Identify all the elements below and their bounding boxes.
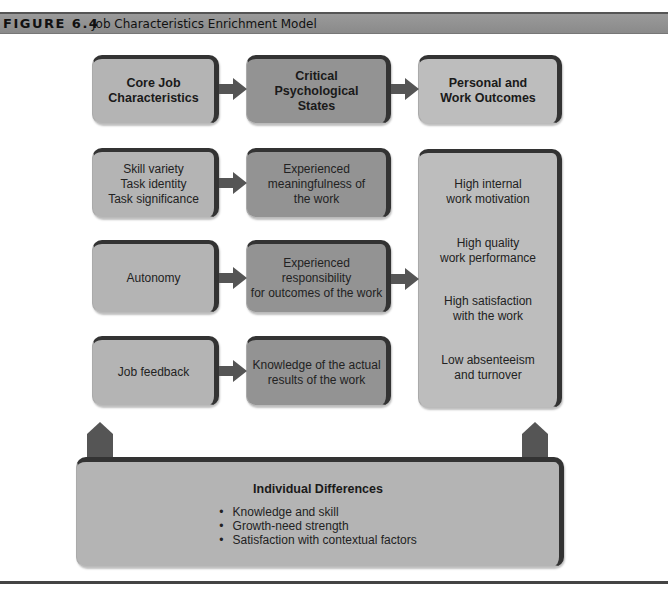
header-core-job-characteristics: Core Job Characteristics	[92, 55, 219, 124]
header-line: States	[298, 99, 336, 114]
outcome-motivation: High internal work motivation	[446, 177, 529, 207]
header-critical-psychological-states: Critical Psychological States	[246, 55, 391, 124]
arrow-up-icon	[87, 422, 113, 462]
arrow-right-icon	[391, 268, 419, 290]
individual-differences-list: Knowledge and skill Growth-need strength…	[219, 505, 416, 547]
individual-differences-box: Individual Differences Knowledge and ski…	[76, 457, 564, 567]
item-line: and turnover	[441, 368, 534, 383]
arrow-right-icon	[391, 78, 419, 100]
item-line: Low absenteeism	[441, 353, 534, 368]
item-line: Task significance	[108, 192, 199, 207]
arrow-up-icon	[522, 422, 548, 462]
item-line: results of the work	[268, 373, 365, 388]
item-line: Knowledge of the actual	[252, 358, 380, 373]
arrow-right-icon	[219, 267, 247, 289]
item-line: work performance	[440, 251, 536, 266]
header-line: Critical	[295, 69, 337, 84]
arrow-right-icon	[219, 360, 247, 382]
state-item-meaningfulness: Experienced meaningfulness of the work	[246, 148, 391, 218]
item-line: Experienced	[283, 162, 350, 177]
core-item-job-feedback: Job feedback	[92, 336, 219, 406]
item-line: Skill variety	[123, 162, 184, 177]
item-line: High internal	[446, 177, 529, 192]
arrow-right-icon	[219, 78, 247, 100]
item-line: with the work	[444, 309, 532, 324]
figure-caption: Job Characteristics Enrichment Model	[92, 17, 317, 31]
item-line: Autonomy	[126, 271, 180, 286]
item-line: High satisfaction	[444, 294, 532, 309]
figure-label: FIGURE 6.4	[3, 16, 99, 31]
item-line: the work	[294, 192, 339, 207]
core-item-autonomy: Autonomy	[92, 240, 219, 313]
outcome-performance: High quality work performance	[440, 236, 536, 266]
item-line: meaningfulness of	[268, 177, 365, 192]
outcome-absenteeism: Low absenteeism and turnover	[441, 353, 534, 383]
item-line: Experienced responsibility	[247, 256, 386, 286]
outcomes-box: High internal work motivation High quali…	[418, 149, 562, 408]
item-line: Job feedback	[118, 365, 189, 380]
item-line: for outcomes of the work	[251, 286, 382, 301]
header-line: Core Job	[126, 76, 180, 91]
item-line: work motivation	[446, 192, 529, 207]
list-item: Growth-need strength	[219, 519, 416, 533]
header-line: Personal and	[449, 76, 528, 91]
header-personal-work-outcomes: Personal and Work Outcomes	[418, 55, 562, 124]
state-item-knowledge-results: Knowledge of the actual results of the w…	[246, 336, 391, 406]
header-line: Work Outcomes	[440, 91, 536, 106]
list-item: Satisfaction with contextual factors	[219, 533, 416, 547]
header-line: Characteristics	[108, 91, 198, 106]
list-item: Knowledge and skill	[219, 505, 416, 519]
arrow-right-icon	[219, 172, 247, 194]
core-item-skill-task: Skill variety Task identity Task signifi…	[92, 148, 219, 218]
bottom-rule	[0, 581, 668, 584]
state-item-responsibility: Experienced responsibility for outcomes …	[246, 240, 391, 313]
item-line: High quality	[440, 236, 536, 251]
figure-title-bar: FIGURE 6.4 Job Characteristics Enrichmen…	[0, 12, 668, 34]
item-line: Task identity	[120, 177, 186, 192]
outcome-satisfaction: High satisfaction with the work	[444, 294, 532, 324]
header-line: Psychological	[274, 84, 358, 99]
individual-differences-title: Individual Differences	[253, 482, 383, 497]
